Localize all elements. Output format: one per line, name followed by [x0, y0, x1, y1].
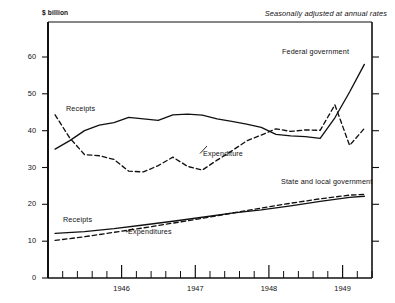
state-local-government-label: State and local government [281, 178, 372, 185]
x-tick-label-1947: 1947 [175, 285, 215, 292]
chart-container: 60 50 40 30 20 10 0 1946 1947 1948 1949 … [0, 0, 395, 303]
chart-subtitle-note: Seasonally adjusted at annual rates [265, 10, 387, 17]
y-tick-label-30: 30 [14, 164, 36, 171]
y-tick-label-50: 50 [14, 90, 36, 97]
annotation-leaders [126, 146, 207, 232]
federal-government-label: Federal government [282, 48, 349, 55]
y-axis-unit-label: $ billion [42, 10, 68, 17]
x-tick-label-1949: 1949 [323, 285, 363, 292]
y-axis-ticks-right [372, 57, 379, 241]
series-line-federal-government-receipts [55, 64, 364, 149]
x-tick-label-1946: 1946 [102, 285, 142, 292]
y-tick-label-40: 40 [14, 127, 36, 134]
series-line-state-and-local-government-receipts [55, 196, 364, 233]
y-tick-label-60: 60 [14, 53, 36, 60]
y-tick-label-20: 20 [14, 200, 36, 207]
y-tick-label-0: 0 [14, 274, 36, 281]
federal-receipts-label: Receipts [66, 105, 95, 112]
chart-plot-area [0, 0, 395, 303]
state-receipts-label: Receipts [63, 216, 92, 223]
y-tick-label-10: 10 [14, 237, 36, 244]
federal-expenditure-label: Expenditure [203, 150, 243, 157]
state-expenditures-label: Expenditures [128, 228, 172, 235]
x-axis-ticks [48, 265, 372, 278]
x-tick-label-1948: 1948 [249, 285, 289, 292]
